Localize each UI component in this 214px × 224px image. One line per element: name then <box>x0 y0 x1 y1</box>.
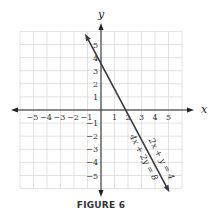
y-tick-label: −3 <box>86 145 98 154</box>
y-tick-label: −2 <box>86 132 98 141</box>
x-tick-label: 4 <box>152 113 157 122</box>
y-axis-up-arrow-icon <box>99 23 104 30</box>
y-tick-label: 1 <box>93 93 98 102</box>
y-axis-down-arrow-icon <box>99 190 104 197</box>
x-tick-label: 1 <box>112 113 117 122</box>
y-tick-label: 3 <box>93 67 98 76</box>
figure-6-graph: x y −5−4−3−2−11234554321−1−2−3−4−5 2x + … <box>0 0 214 224</box>
y-tick-label: −1 <box>86 119 98 128</box>
y-tick-label: −5 <box>86 172 98 181</box>
x-tick-label: −5 <box>27 113 39 122</box>
y-tick-label: −4 <box>86 158 98 167</box>
y-tick-label: 2 <box>93 80 98 89</box>
y-tick-label: 5 <box>93 41 98 50</box>
x-tick-label: −2 <box>67 113 79 122</box>
x-tick-label: 3 <box>139 113 144 122</box>
axes: x y <box>11 8 208 197</box>
x-tick-label: −3 <box>54 113 66 122</box>
x-tick-label: 5 <box>166 113 171 122</box>
x-tick-label: −4 <box>40 113 52 122</box>
x-axis-left-arrow-icon <box>11 108 18 113</box>
y-axis-label: y <box>97 8 105 21</box>
x-axis-right-arrow-icon <box>187 108 194 113</box>
x-axis-label: x <box>201 103 208 116</box>
figure-caption: FIGURE 6 <box>0 200 202 210</box>
line-arrow-upper-icon <box>85 34 91 41</box>
equation-labels: 2x + y = 4 4x + 2y = 8 <box>127 132 177 183</box>
